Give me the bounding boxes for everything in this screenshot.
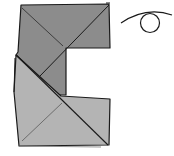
origami-diagram: [0, 0, 174, 156]
turn-over-icon: [121, 12, 172, 33]
